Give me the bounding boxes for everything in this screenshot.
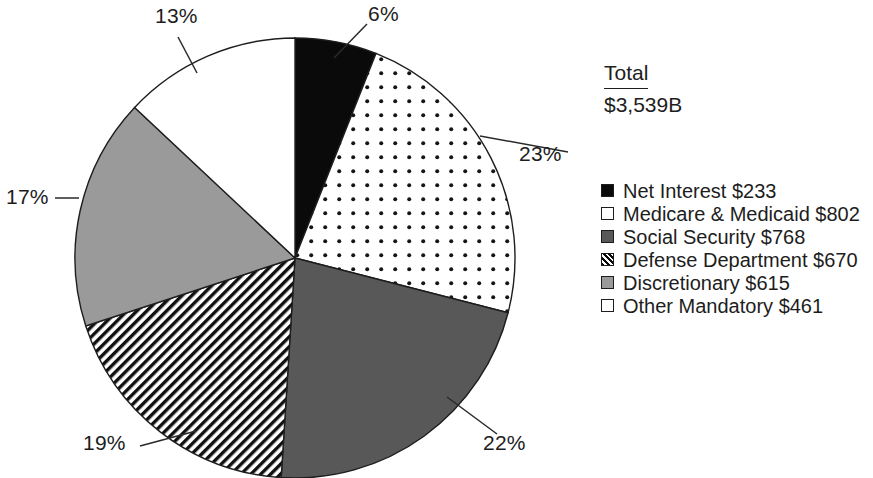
legend-item-medicare-medicaid[interactable]: Medicare & Medicaid $802 — [601, 202, 873, 225]
legend-label-medicare-medicaid: Medicare & Medicaid $802 — [623, 204, 860, 224]
legend-label-other-mandatory: Other Mandatory $461 — [623, 296, 823, 316]
pie-label-social-security: 22% — [483, 431, 526, 455]
pie-label-net-interest: 6% — [368, 2, 399, 26]
legend-swatch-social-security-icon — [601, 230, 614, 243]
legend-swatch-other-mandatory-icon — [601, 299, 614, 312]
legend-item-social-security[interactable]: Social Security $768 — [601, 225, 873, 248]
legend-swatch-net-interest-icon — [601, 184, 614, 197]
pie-slices — [75, 38, 515, 478]
legend-item-defense-department[interactable]: Defense Department $670 — [601, 248, 873, 271]
total-label: Total — [604, 59, 648, 89]
legend-swatch-defense-department-icon — [601, 253, 614, 266]
leader-line-social-security — [447, 397, 497, 434]
legend-swatch-medicare-medicaid-icon — [601, 207, 614, 220]
pie-chart-figure: 6% 23% 22% 19% 17% 13% Total $3,539B Net… — [0, 0, 873, 478]
legend-item-net-interest[interactable]: Net Interest $233 — [601, 179, 873, 202]
legend-label-social-security: Social Security $768 — [623, 227, 805, 247]
pie-label-other-mandatory: 13% — [155, 4, 198, 28]
pie-label-medicare-medicaid: 23% — [519, 142, 562, 166]
legend-item-discretionary[interactable]: Discretionary $615 — [601, 271, 873, 294]
legend-swatch-discretionary-icon — [601, 276, 614, 289]
pie-label-discretionary: 17% — [6, 185, 49, 209]
chart-legend: Net Interest $233 Medicare & Medicaid $8… — [601, 179, 873, 317]
total-block: Total $3,539B — [604, 59, 682, 118]
pie-label-defense-department: 19% — [83, 431, 126, 455]
legend-label-discretionary: Discretionary $615 — [623, 273, 790, 293]
total-value: $3,539B — [604, 91, 682, 119]
legend-label-defense-department: Defense Department $670 — [623, 250, 858, 270]
legend-item-other-mandatory[interactable]: Other Mandatory $461 — [601, 294, 873, 317]
legend-label-net-interest: Net Interest $233 — [623, 181, 776, 201]
